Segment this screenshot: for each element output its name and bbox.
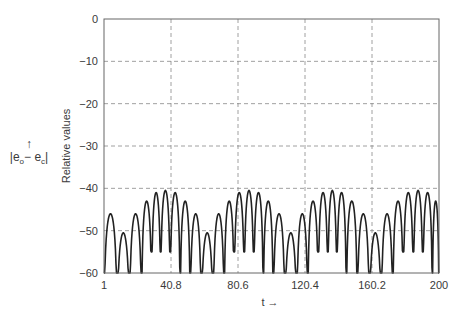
chart-canvas: 0−10−20−30−40−50−60 140.880.6120.4160.22… — [0, 0, 463, 316]
y-tick-label: −40 — [79, 182, 98, 194]
y-axis-ticks: 0−10−20−30−40−50−60 — [79, 13, 98, 279]
x-tick-label: 200 — [430, 279, 448, 291]
x-tick-label: 80.6 — [227, 279, 248, 291]
y-tick-label: −20 — [79, 98, 98, 110]
x-tick-label: 120.4 — [291, 279, 319, 291]
y-tick-label: −50 — [79, 225, 98, 237]
x-tick-label: 160.2 — [358, 279, 386, 291]
y-tick-label: −30 — [79, 140, 98, 152]
x-tick-label: 40.8 — [160, 279, 181, 291]
series-line — [104, 190, 439, 273]
y-tick-label: −60 — [79, 267, 98, 279]
y-tick-label: −10 — [79, 55, 98, 67]
y-axis-label: Relative values — [60, 108, 72, 183]
x-tick-label: 1 — [101, 279, 107, 291]
side-quantity-label: ↑ |eo− ec| — [4, 138, 54, 168]
x-axis-label: t → — [261, 296, 278, 308]
y-tick-label: 0 — [92, 13, 98, 25]
side-expression: |eo− ec| — [4, 151, 54, 168]
x-axis-ticks: 140.880.6120.4160.2200 — [101, 279, 448, 291]
